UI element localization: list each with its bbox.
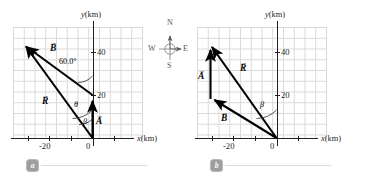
caption-b: b bbox=[211, 160, 331, 171]
compass-label-north: N bbox=[167, 18, 173, 27]
vector-label-A-a: →A bbox=[96, 115, 102, 126]
vector-label-R-a: →R bbox=[42, 95, 48, 106]
vector-letter-R-a: R bbox=[42, 96, 48, 106]
vector-letter-A-b: A bbox=[198, 71, 204, 81]
angle-label-beta-b: β bbox=[260, 100, 264, 109]
caption-rule-b bbox=[225, 165, 331, 166]
vector-letter-A-a: A bbox=[96, 116, 102, 126]
vector-label-A-b: →A bbox=[198, 70, 204, 81]
angle-label-60-a: 60.0° bbox=[59, 57, 77, 66]
caption-a: a bbox=[27, 160, 147, 171]
vector-label-B-a: →B bbox=[50, 42, 56, 53]
vector-letter-B-b: B bbox=[221, 113, 227, 123]
vector-addition-figure: -20 0 20 40 y(km) x(km) bbox=[0, 0, 367, 182]
vector-label-B-b: →B bbox=[221, 112, 227, 123]
vector-letter-R-b: R bbox=[240, 63, 246, 73]
caption-rule-a bbox=[41, 165, 147, 166]
angle-label-beta-a: β bbox=[83, 117, 87, 126]
panel-b: -20 0 20 40 y(km) x(km) →A bbox=[184, 0, 367, 182]
compass-label-south: S bbox=[167, 61, 171, 70]
caption-badge-a: a bbox=[27, 160, 38, 171]
vector-letter-B-a: B bbox=[50, 43, 56, 53]
caption-badge-b: b bbox=[211, 160, 222, 171]
vector-label-R-b: →R bbox=[240, 62, 246, 73]
vectors-b bbox=[184, 0, 367, 182]
angle-label-theta-a: θ bbox=[74, 100, 78, 109]
vector-a-B bbox=[27, 47, 93, 95]
angle-arc-60-a bbox=[78, 76, 93, 83]
compass-label-west: W bbox=[148, 44, 156, 53]
